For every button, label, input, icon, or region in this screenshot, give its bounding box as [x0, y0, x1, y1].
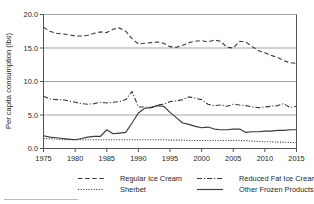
x-tick-label: 1975 [35, 154, 51, 163]
legend-label[interactable]: Other Frozen Products [239, 185, 314, 194]
y-axis-ticks: 0.05.010.015.020.0 [24, 10, 44, 153]
chart-legend: Regular Ice CreamReduced Fat Ice CreamSh… [78, 174, 314, 194]
x-axis-ticks: 197519801985199019952000200520102015 [35, 149, 304, 163]
y-tick-label: 20.0 [24, 10, 38, 19]
series-line-reduced-fat-ice-cream [44, 92, 297, 108]
legend-label[interactable]: Reduced Fat Ice Cream [239, 174, 314, 183]
x-tick-label: 1995 [162, 154, 178, 163]
y-tick-label: 10.0 [24, 77, 38, 86]
y-tick-label: 15.0 [24, 44, 38, 53]
legend-label[interactable]: Sherbet [120, 185, 146, 194]
y-tick-label: 0.0 [28, 144, 38, 153]
chart-figure: 0.05.010.015.020.0 197519801985199019952… [0, 0, 314, 204]
x-tick-label: 2000 [193, 154, 209, 163]
series-line-sherbet [44, 138, 297, 142]
x-tick-label: 2005 [225, 154, 241, 163]
line-chart: 0.05.010.015.020.0 197519801985199019952… [0, 0, 314, 204]
x-tick-label: 1990 [130, 154, 146, 163]
y-axis-title: Per capita consumption (lbs) [4, 32, 13, 129]
x-tick-label: 2015 [288, 154, 304, 163]
x-tick-label: 1985 [99, 154, 115, 163]
x-tick-label: 1980 [67, 154, 83, 163]
y-tick-label: 5.0 [28, 111, 38, 120]
x-tick-label: 2010 [257, 154, 273, 163]
legend-label[interactable]: Regular Ice Cream [120, 174, 182, 183]
data-series [44, 27, 297, 142]
series-line-other-frozen-products [44, 106, 297, 140]
gridlines [44, 15, 297, 116]
series-line-regular-ice-cream [44, 27, 297, 63]
